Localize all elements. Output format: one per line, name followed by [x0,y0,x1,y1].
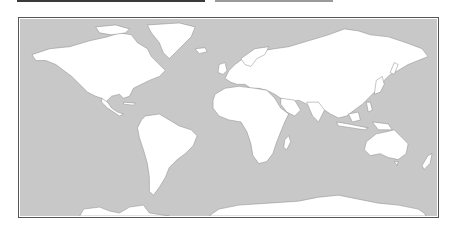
header-bar-light [215,0,333,2]
world-map-frame [18,17,439,218]
header-bar-dark [17,0,205,2]
world-map [20,19,437,216]
